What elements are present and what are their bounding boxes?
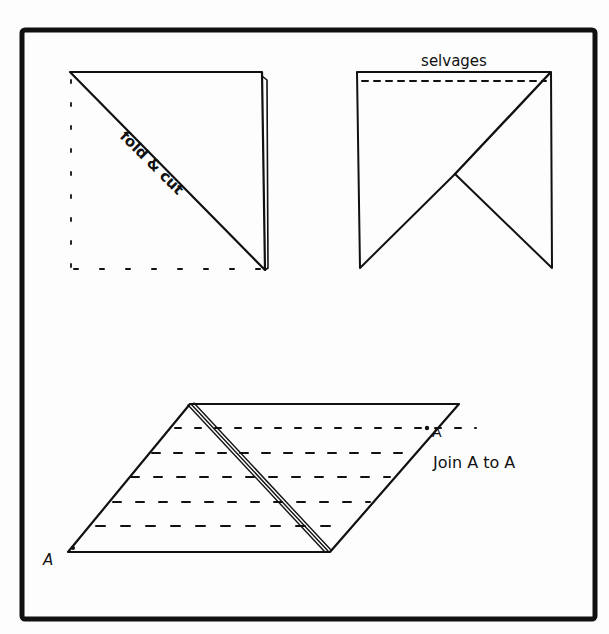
- point-a-bottom-label: A: [42, 551, 53, 569]
- panel-selvages: selvages: [357, 52, 552, 268]
- fold-and-cut-label: fold & cut: [116, 127, 187, 198]
- panel-fold-and-cut: fold & cut: [70, 72, 268, 270]
- point-a-bottom-dot: [71, 546, 75, 550]
- point-a-top-dot: [425, 426, 429, 430]
- strip-cutting-lines: [96, 428, 476, 526]
- selvages-label: selvages: [421, 52, 487, 70]
- selvage-diagonal: [455, 73, 550, 174]
- seam-triple-line: [188, 403, 331, 552]
- point-a-top-label: A: [432, 424, 442, 440]
- join-a-to-a-label: Join A to A: [432, 453, 515, 472]
- panel-join-a-to-a: A A Join A to A: [42, 403, 515, 569]
- bias-strip-diagram: fold & cut selvages A A Join A to A: [0, 0, 609, 634]
